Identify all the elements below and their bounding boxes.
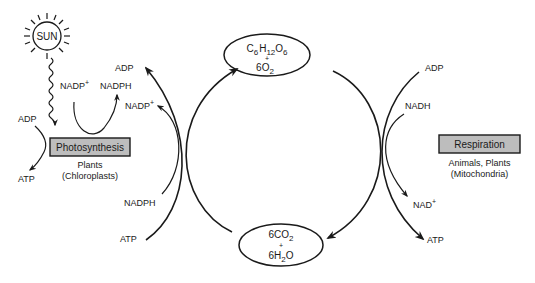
right-nadh-to-nad-arc <box>386 114 407 196</box>
top-plus: + <box>265 55 269 62</box>
respiration-subtitle-1: Animals, Plants <box>448 158 511 168</box>
photo-nadph-label: NADPH <box>100 81 132 91</box>
right-nad-label: NAD+ <box>413 198 436 210</box>
photosynthesis-subtitle-2: (Chloroplasts) <box>62 171 118 181</box>
respiration-subtitle-2: (Mitochondria) <box>451 169 509 179</box>
sun-label: SUN <box>36 31 57 42</box>
bottom-plus: + <box>279 242 283 249</box>
photosynthesis-subtitle-1: Plants <box>77 160 103 170</box>
left-co2-to-glucose-arc <box>186 69 237 232</box>
right-adp-to-atp-arc <box>382 72 423 239</box>
photo-adp-atp-arrow <box>30 126 46 170</box>
left-adp-label: ADP <box>115 63 134 73</box>
left-atp-label: ATP <box>120 234 137 244</box>
left-nadph-label: NADPH <box>124 198 156 208</box>
photosynthesis-box: Photosynthesis <box>50 138 130 156</box>
right-glucose-to-co2-arc <box>328 71 381 238</box>
respiration-label: Respiration <box>454 139 505 150</box>
left-nadp-label: NADP+ <box>125 99 154 111</box>
co2-water-ellipse: 6CO2 + 6H2O <box>239 224 323 266</box>
photo-adp-label: ADP <box>18 114 37 124</box>
left-atp-to-adp-arc <box>146 68 182 240</box>
right-adp-label: ADP <box>425 63 444 73</box>
photo-nadp-label: NADP+ <box>60 79 89 91</box>
right-nadh-label: NADH <box>405 101 431 111</box>
light-wave <box>49 58 55 125</box>
photo-nadp-loop-arrow <box>74 95 117 134</box>
photo-atp-label: ATP <box>18 174 35 184</box>
respiration-box: Respiration <box>439 135 520 153</box>
right-atp-label: ATP <box>427 235 444 245</box>
photosynthesis-label: Photosynthesis <box>56 142 124 153</box>
cycle-diagram: SUN Photosynthesis Plants (Chloroplasts)… <box>0 0 535 283</box>
sun-icon: SUN <box>24 13 70 59</box>
